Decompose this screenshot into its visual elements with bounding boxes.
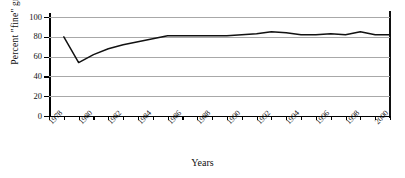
x-axis-title: Years xyxy=(0,157,405,168)
x-tick-1979 xyxy=(64,116,65,120)
x-tick-1999 xyxy=(360,116,361,120)
chart-figure: Percent "fine" grain 020406080100 197819… xyxy=(0,0,405,178)
y-tick-label-20: 20 xyxy=(16,92,42,101)
bottom-axis-line xyxy=(49,116,390,117)
data-series-line xyxy=(49,17,390,116)
x-tick-2001 xyxy=(390,116,391,120)
x-tick-1991 xyxy=(242,116,243,120)
y-tick-label-80: 80 xyxy=(16,32,42,41)
x-tick-1985 xyxy=(153,116,154,120)
x-tick-1989 xyxy=(212,116,213,120)
y-tick-label-60: 60 xyxy=(16,52,42,61)
x-tick-1997 xyxy=(331,116,332,120)
series-line-0 xyxy=(64,32,390,63)
y-tick-label-0: 0 xyxy=(16,112,42,121)
plot-area: 020406080100 197819801982198419861988199… xyxy=(49,17,390,116)
y-tick-label-40: 40 xyxy=(16,72,42,81)
x-tick-1993 xyxy=(271,116,272,120)
y-tick-label-100: 100 xyxy=(16,13,42,22)
x-tick-1987 xyxy=(182,116,183,120)
x-tick-1981 xyxy=(93,116,94,120)
x-tick-1983 xyxy=(123,116,124,120)
x-tick-1995 xyxy=(301,116,302,120)
